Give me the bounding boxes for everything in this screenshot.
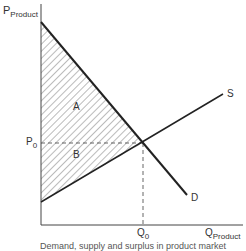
area-a-label: A: [73, 102, 80, 112]
area-b-label: B: [73, 150, 80, 160]
equilibrium-price-label: P0: [26, 137, 37, 147]
equilibrium-quantity-label: Q0: [137, 228, 149, 238]
x-axis-label: QProduct: [205, 228, 240, 238]
figure-caption: Demand, supply and surplus in product ma…: [40, 241, 226, 251]
demand-label: D: [191, 193, 198, 203]
y-axis-label: PProduct: [3, 5, 38, 16]
supply-label: S: [227, 89, 234, 99]
